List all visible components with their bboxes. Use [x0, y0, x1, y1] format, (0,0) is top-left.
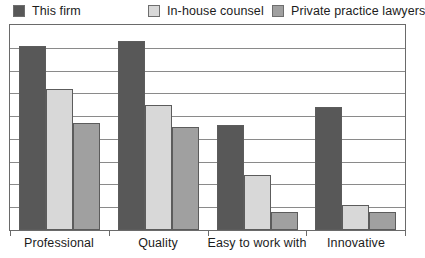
bar: [244, 175, 271, 230]
x-axis-category-label: Professional: [24, 236, 94, 250]
legend-swatch-icon-in-house-counsel: [148, 5, 160, 17]
plot-area: [9, 24, 406, 231]
bar: [118, 41, 145, 230]
legend-label-in-house-counsel: In-house counsel: [167, 4, 264, 18]
bar: [172, 127, 199, 230]
legend-label-private-practice-lawyers: Private practice lawyers: [291, 4, 425, 18]
bar: [271, 212, 298, 230]
x-axis-tick: [10, 231, 11, 236]
x-axis-tick: [109, 231, 110, 236]
chart-legend: This firm In-house counsel Private pract…: [0, 0, 421, 22]
bar: [73, 123, 100, 230]
legend-item-private-practice-lawyers: Private practice lawyers: [272, 2, 425, 20]
legend-item-in-house-counsel: In-house counsel: [148, 2, 264, 20]
legend-swatch-icon-private-practice-lawyers: [272, 5, 284, 17]
x-axis-category-label: Quality: [138, 236, 178, 250]
bar: [217, 125, 244, 230]
bar: [46, 89, 73, 230]
legend-label-this-firm: This firm: [32, 4, 81, 18]
x-axis-category-label: Easy to work with: [208, 236, 307, 250]
bar: [145, 105, 172, 230]
x-axis-category-label: Innovative: [327, 236, 385, 250]
bar: [19, 46, 46, 230]
bar: [342, 205, 369, 230]
legend-item-this-firm: This firm: [13, 2, 81, 20]
bar: [369, 212, 396, 230]
bars-layer: [10, 25, 405, 230]
bar: [315, 107, 342, 230]
legend-swatch-icon-this-firm: [13, 5, 25, 17]
x-axis-tick: [405, 231, 406, 236]
